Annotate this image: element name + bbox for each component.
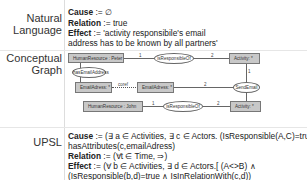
section-divider-2 xyxy=(0,127,307,128)
node-is-responsible-of-2[interactable]: isResponsibleOf xyxy=(163,101,203,112)
node-activity-2[interactable]: Activity: * xyxy=(230,101,261,112)
relation-key: Relation xyxy=(68,18,101,28)
natural-language-effect-cont: address has to be known by all partners' xyxy=(68,38,218,48)
node-activity-1[interactable]: Activity: * xyxy=(229,53,260,64)
node-human-resource-peter[interactable]: HumanResource : Peter xyxy=(68,53,124,63)
relation-value: := true xyxy=(101,18,127,28)
label-line: Language xyxy=(0,24,62,36)
effect-value: := (∀ b ∈ Activities, ∃ d ∈ Actors.[ (A<… xyxy=(91,161,255,171)
multiplicity-label: 1 xyxy=(248,69,251,74)
node-email-address-1[interactable]: EmailAdress: * xyxy=(75,82,112,93)
multiplicity-label: 2 xyxy=(211,53,214,58)
natural-language-relation: Relation := true xyxy=(68,18,127,28)
edge-activity1-sendemail xyxy=(246,63,247,82)
edge-sendemail-activity2 xyxy=(246,93,247,101)
coref-label: coref xyxy=(118,82,128,87)
edge-coref xyxy=(112,87,136,88)
label-line: Conceptual xyxy=(0,52,62,64)
edge-peter-isresp1 xyxy=(124,58,154,59)
multiplicity-label: 2 xyxy=(204,82,207,87)
node-send-email[interactable]: SendEmail xyxy=(233,82,260,93)
label-line: Natural xyxy=(0,12,62,24)
relation-key: Relation xyxy=(68,151,101,161)
upsl-relation: Relation := (∀t ∈ Time, ⇒) xyxy=(68,151,167,161)
node-has-email-address[interactable]: hasEmailAddress xyxy=(72,67,106,78)
node-is-responsible-of-1[interactable]: isResponsibleOf xyxy=(154,53,194,64)
node-email-address-2[interactable]: EmailAdress: * xyxy=(137,82,174,93)
upsl-cause-cont: hasAttributes(c,emailAdress) xyxy=(68,141,175,151)
upsl-effect: Effect := (∀ b ∈ Activities, ∃ d ∈ Actor… xyxy=(68,161,256,171)
node-human-resource-john[interactable]: HumanResource : John xyxy=(83,101,143,112)
multiplicity-label: 1 xyxy=(152,101,155,106)
natural-language-cause: Cause := ∅ xyxy=(68,7,112,17)
section-divider-1 xyxy=(0,50,307,51)
section-divider-vertical xyxy=(64,0,65,180)
cause-value: := ∅ xyxy=(93,7,112,17)
upsl-label: UPSL xyxy=(0,136,62,148)
effect-value: := 'activity responsibile's email xyxy=(91,28,205,38)
upsl-cause: Cause := (∃ a ∈ Activities, ∃ c ∈ Actors… xyxy=(68,131,307,141)
upsl-effect-cont: (IsResponsible(b,d)=true ∧ IsInRelationW… xyxy=(68,171,251,180)
cause-key: Cause xyxy=(68,7,93,17)
effect-key: Effect xyxy=(68,28,91,38)
edge-john-isresp2 xyxy=(143,106,163,107)
cause-value: := (∃ a ∈ Activities, ∃ c ∈ Actors. (IsR… xyxy=(93,131,307,141)
multiplicity-label: 1 xyxy=(139,53,142,58)
relation-value: := (∀t ∈ Time, ⇒) xyxy=(101,151,167,161)
label-line: Graph xyxy=(0,64,62,76)
edge-isresp2-activity2 xyxy=(203,106,230,107)
cause-key: Cause xyxy=(68,131,93,141)
multiplicity-label: 2 xyxy=(217,101,220,106)
conceptual-graph-label: Conceptual Graph xyxy=(0,52,62,76)
natural-language-label: Natural Language xyxy=(0,12,62,36)
edge-isresp1-activity1 xyxy=(193,58,229,59)
effect-key: Effect xyxy=(68,161,91,171)
natural-language-effect: Effect := 'activity responsibile's email xyxy=(68,28,206,38)
